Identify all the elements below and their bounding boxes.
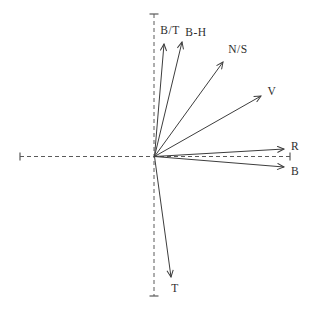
vector-arrow-n-s <box>155 62 224 157</box>
vector-arrow-v <box>155 96 262 157</box>
vector-label-b: B <box>291 165 299 177</box>
vector-diagram-svg: B/TB-HN/SVRBT <box>0 0 313 313</box>
vector-label-t: T <box>171 282 179 294</box>
diagram-stage: B/TB-HN/SVRBT <box>0 0 313 313</box>
vector-arrow-b <box>155 157 285 168</box>
vector-label-v: V <box>268 85 277 97</box>
vector-label-b-t: B/T <box>160 24 179 36</box>
vectors-group <box>155 42 285 277</box>
vector-arrow-b-t <box>155 44 165 157</box>
vector-arrow-t <box>155 157 172 278</box>
vector-arrow-r <box>155 149 285 157</box>
vector-label-n-s: N/S <box>228 43 247 55</box>
vector-arrow-b-h <box>155 42 183 157</box>
vector-label-r: R <box>291 140 299 152</box>
vector-label-b-h: B-H <box>185 26 206 38</box>
